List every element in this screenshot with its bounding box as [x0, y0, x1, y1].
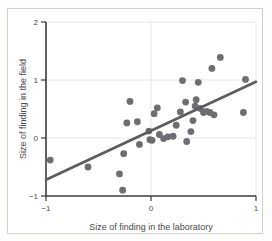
data-point: [177, 109, 184, 116]
data-point: [154, 104, 161, 111]
data-point: [188, 128, 195, 135]
y-tick-label: 1: [34, 76, 39, 85]
data-point: [47, 157, 54, 164]
y-tick-label: 0: [34, 134, 39, 143]
data-point: [85, 164, 92, 171]
y-axis-title: Size of finding in the field: [18, 59, 28, 159]
data-point: [195, 79, 202, 86]
data-point: [173, 122, 180, 129]
data-point: [119, 187, 126, 194]
data-points: [47, 54, 249, 194]
data-point: [127, 98, 134, 105]
data-point: [170, 133, 177, 140]
data-point: [123, 120, 130, 127]
data-point: [151, 110, 158, 117]
y-tick-label: −1: [29, 192, 39, 201]
x-tick-label: 1: [254, 204, 259, 213]
scatter-plot: −1012−101 Size of finding in the laborat…: [0, 0, 272, 241]
y-tick-label: 2: [34, 18, 39, 27]
data-point: [134, 118, 141, 125]
data-point: [193, 96, 200, 103]
data-point: [149, 137, 156, 144]
data-point: [182, 99, 189, 106]
x-tick-label: 0: [149, 204, 154, 213]
data-point: [136, 141, 143, 148]
x-axis-title: Size of finding in the laboratory: [89, 222, 213, 232]
data-point: [211, 111, 218, 118]
data-point: [190, 117, 197, 124]
data-point: [209, 65, 216, 72]
data-point: [116, 171, 123, 178]
data-point: [240, 109, 247, 116]
data-point: [242, 76, 249, 83]
data-point: [179, 77, 186, 84]
axis-ticks: [41, 22, 256, 201]
data-point: [217, 54, 224, 61]
gridlines: [46, 22, 256, 196]
figure-container: −1012−101 Size of finding in the laborat…: [0, 0, 272, 241]
data-point: [120, 150, 127, 157]
x-tick-label: −1: [41, 204, 51, 213]
axis-tick-labels: −1012−101: [29, 18, 259, 213]
data-point: [183, 138, 190, 145]
